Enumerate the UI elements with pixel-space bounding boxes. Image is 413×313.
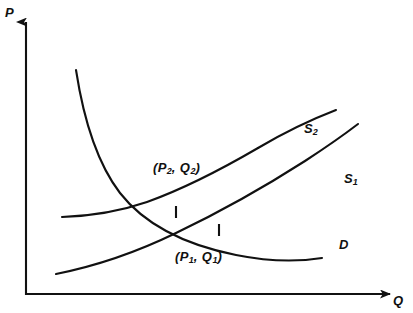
curve-label-s1-base: S [344,171,353,186]
x-axis-label: Q [393,294,403,307]
supply-demand-chart: P Q S2 S1 D (P2, Q2) (P1, Q1) [0,0,413,313]
equilibrium-label-1-q: Q [202,249,213,264]
equilibrium-label-1-separator: , [194,249,202,264]
equilibrium-label-2-q: Q [180,160,191,175]
curve-label-s2-subscript: 2 [313,127,318,137]
supply-curve-s2-upper [258,110,336,148]
equilibrium-label-2-p: P [158,160,167,175]
equilibrium-label-2-close: ) [195,160,200,175]
curve-label-d: D [339,238,348,251]
curve-label-s1: S1 [344,172,358,187]
curve-label-s2: S2 [304,122,318,137]
y-axis-label: P [5,6,14,19]
chart-canvas [0,0,413,313]
curve-label-s1-subscript: 1 [353,177,358,187]
curve-label-s2-base: S [304,121,313,136]
equilibrium-label-1: (P1, Q1) [175,250,222,265]
equilibrium-label-1-p: P [180,249,189,264]
equilibrium-label-2: (P2, Q2) [153,161,200,176]
equilibrium-label-2-separator: , [172,160,180,175]
equilibrium-label-1-close: ) [217,249,222,264]
